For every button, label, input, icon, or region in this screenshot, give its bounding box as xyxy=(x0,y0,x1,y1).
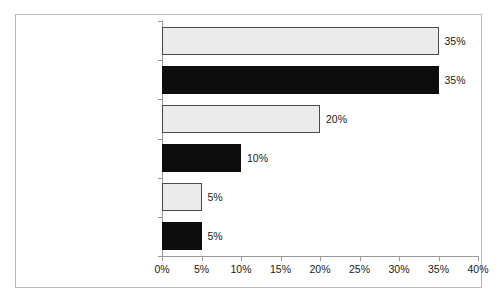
category-tick xyxy=(158,178,162,179)
bar xyxy=(162,144,241,172)
bar xyxy=(162,66,439,94)
value-tick xyxy=(439,257,440,261)
value-tick xyxy=(202,257,203,261)
bar-value-label: 5% xyxy=(208,230,223,242)
value-tick xyxy=(162,257,163,261)
bar xyxy=(162,27,439,55)
bar xyxy=(162,105,320,133)
category-tick xyxy=(158,21,162,22)
category-tick xyxy=(158,99,162,100)
value-tick xyxy=(478,257,479,261)
bar-value-label: 20% xyxy=(326,113,347,125)
value-tick xyxy=(320,257,321,261)
category-tick xyxy=(158,60,162,61)
value-tick-label: 15% xyxy=(270,263,291,275)
value-tick-label: 35% xyxy=(428,263,449,275)
value-tick-label: 5% xyxy=(194,263,209,275)
chart-frame: StandardisierungsdruckKunde/MarktProfess… xyxy=(15,14,482,288)
value-tick-label: 20% xyxy=(309,263,330,275)
plot-area xyxy=(162,21,478,256)
bar-value-label: 5% xyxy=(208,191,223,203)
bar-value-label: 10% xyxy=(247,152,268,164)
value-tick-label: 40% xyxy=(467,263,488,275)
value-tick-label: 25% xyxy=(349,263,370,275)
value-tick xyxy=(360,257,361,261)
bar xyxy=(162,222,202,250)
category-axis-labels: StandardisierungsdruckKunde/MarktProfess… xyxy=(16,29,157,289)
value-tick-label: 0% xyxy=(154,263,169,275)
value-tick xyxy=(241,257,242,261)
bar xyxy=(162,183,202,211)
value-tick xyxy=(281,257,282,261)
category-tick xyxy=(158,217,162,218)
value-tick-label: 30% xyxy=(388,263,409,275)
bar-value-label: 35% xyxy=(445,74,466,86)
bar-value-label: 35% xyxy=(445,35,466,47)
category-tick xyxy=(158,139,162,140)
value-tick xyxy=(399,257,400,261)
value-tick-label: 10% xyxy=(230,263,251,275)
